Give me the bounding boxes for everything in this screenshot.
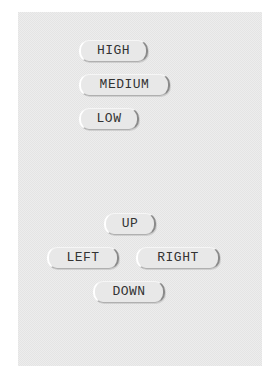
left-button[interactable]: LEFT [47,247,119,269]
down-button[interactable]: DOWN [93,281,165,303]
high-button[interactable]: HIGH [79,40,148,62]
right-button[interactable]: RIGHT [136,247,220,269]
low-button[interactable]: LOW [79,108,139,130]
medium-button[interactable]: MEDIUM [79,74,170,96]
up-button[interactable]: UP [104,213,156,235]
control-panel [18,12,262,366]
